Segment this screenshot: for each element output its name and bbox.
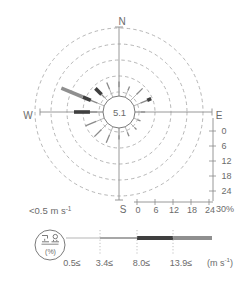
- legend-calm-unit-label: (%): [45, 248, 56, 256]
- legend-calm-circle: [35, 230, 65, 260]
- spoke-ne-class1: [130, 95, 136, 101]
- spoke-wnw-class2: [91, 100, 98, 103]
- spoke-ene-class2: [140, 100, 147, 103]
- bottom-ruler-label-1: 6: [153, 205, 158, 215]
- right-ruler-label-2: 12: [222, 156, 232, 166]
- spoke-ese-class2: [138, 120, 141, 121]
- compass-label-n: N: [118, 16, 125, 27]
- right-ruler-label-3: 18: [222, 171, 232, 181]
- spoke-wnw-class4: [61, 88, 82, 97]
- legend-korean-calm-text-icon: [42, 234, 59, 241]
- bottom-ruler-label-4: 24: [205, 205, 215, 215]
- spoke-nnw-class2: [107, 82, 110, 89]
- spoke-wnw-class1: [98, 103, 105, 106]
- spoke-ssw-class2: [106, 135, 109, 143]
- spoke-nw-class1: [105, 98, 108, 101]
- spoke-wsw-class1: [96, 118, 104, 121]
- right-ruler-label-1: 6: [222, 141, 227, 151]
- compass-label-w: W: [23, 110, 33, 121]
- wind-rose-panel: 5.1061218240612182430%NWES<0.5 m s-1(%)0…: [0, 0, 249, 288]
- spoke-wnw-class3: [83, 97, 91, 100]
- bottom-ruler: 06121824: [134, 199, 215, 215]
- spoke-ene-class1: [134, 103, 141, 106]
- wind-rose-chart: 5.1061218240612182430%NWES<0.5 m s-1(%)0…: [0, 0, 249, 288]
- bottom-ruler-label-2: 12: [169, 205, 179, 215]
- legend-class-label-4: 13.9≤: [170, 258, 193, 268]
- spoke-ese-class1: [134, 118, 138, 120]
- bottom-ruler-label-3: 18: [187, 205, 197, 215]
- legend-class-label-3: 8.0≤: [133, 258, 151, 268]
- spoke-nne-class2: [128, 87, 130, 91]
- compass-label-e: E: [216, 110, 223, 121]
- right-ruler-label-0: 0: [222, 126, 227, 136]
- spoke-se-class2: [134, 127, 136, 129]
- spoke-ne-class2: [136, 88, 142, 94]
- bottom-ruler-label-0: 0: [135, 205, 140, 215]
- spoke-nw-class2: [102, 95, 105, 98]
- legend-calm-threshold-label: <0.5 m s-1: [29, 205, 72, 216]
- legend-class-label-1: 0.5≤: [63, 258, 81, 268]
- spoke-sw-class1: [102, 123, 108, 129]
- calm-percent-value: 5.1: [113, 107, 126, 118]
- spoke-sw-class2: [94, 129, 101, 136]
- spoke-sse-class2: [127, 132, 129, 136]
- calm-circle-group: 5.1: [103, 96, 135, 128]
- spoke-nw-class3: [95, 88, 101, 94]
- hangul-yo-ieung-stroke: [53, 234, 57, 238]
- right-ruler: 06121824: [209, 118, 232, 201]
- compass-label-s: S: [120, 204, 127, 215]
- spoke-sse-class1: [125, 127, 127, 132]
- radial-max-label: 30%: [216, 204, 234, 214]
- spoke-wsw-class2: [85, 121, 96, 125]
- spoke-nne-class1: [125, 91, 128, 98]
- legend: <0.5 m s-1(%)0.5≤3.4≤8.0≤13.9≤(m s-1): [29, 205, 233, 268]
- legend-unit-label: (m s-1): [207, 256, 233, 267]
- spoke-ene-class3: [147, 99, 151, 101]
- legend-class-label-2: 3.4≤: [96, 258, 114, 268]
- spoke-ssw-class1: [110, 127, 113, 135]
- hangul-go-giyeok-stroke: [42, 236, 48, 239]
- right-ruler-label-4: 24: [222, 186, 232, 196]
